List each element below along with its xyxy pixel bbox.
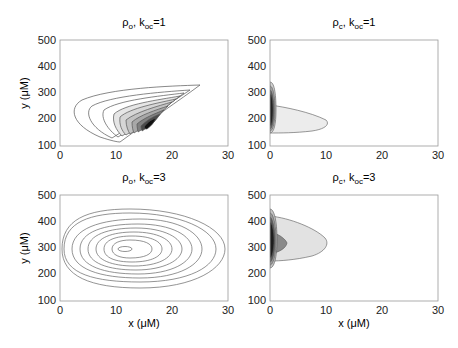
svg-text:500: 500: [248, 189, 266, 201]
svg-text:400: 400: [38, 60, 56, 72]
y-tick-labels: 100 200 300 400 500: [38, 189, 56, 306]
svg-text:0: 0: [267, 304, 273, 316]
subplot-rho-o-koc3: ρo, koc=3 100 200 300 400 500 0 10 20 30: [18, 171, 234, 329]
subplot-title: ρo, koc=3: [122, 171, 165, 186]
svg-text:10: 10: [320, 304, 332, 316]
x-tick-labels: 0 10 20 30: [57, 149, 234, 161]
filled-contours: [270, 82, 327, 133]
filled-contours: [270, 209, 327, 268]
svg-text:400: 400: [248, 215, 266, 227]
contour-lines: [74, 85, 200, 142]
subplot-title: ρc, koc=1: [333, 16, 376, 31]
svg-text:30: 30: [432, 149, 444, 161]
subplot-rho-c-koc1: ρc, koc=1 100 200 300 400 500 0 10 20 30: [248, 16, 444, 161]
y-tick-labels: 100 200 300 400 500: [248, 34, 266, 151]
y-tick-labels: 100 200 300 400 500: [38, 34, 56, 151]
svg-text:10: 10: [320, 149, 332, 161]
x-axis-label: x (μM): [128, 317, 159, 329]
subplot-title: ρc, koc=3: [333, 171, 376, 186]
svg-text:200: 200: [248, 112, 266, 124]
x-tick-labels: 0 10 20 30: [57, 304, 234, 316]
svg-text:300: 300: [38, 86, 56, 98]
svg-text:20: 20: [166, 304, 178, 316]
svg-text:20: 20: [376, 304, 388, 316]
svg-text:100: 100: [38, 139, 56, 151]
svg-text:200: 200: [38, 112, 56, 124]
svg-text:500: 500: [38, 189, 56, 201]
svg-text:10: 10: [110, 304, 122, 316]
svg-text:300: 300: [248, 241, 266, 253]
x-tick-labels: 0 10 20 30: [267, 149, 444, 161]
svg-text:100: 100: [248, 139, 266, 151]
svg-text:30: 30: [222, 149, 234, 161]
svg-text:0: 0: [57, 149, 63, 161]
svg-text:100: 100: [38, 294, 56, 306]
svg-text:20: 20: [376, 149, 388, 161]
x-axis-label: x (μM): [338, 317, 369, 329]
contour-lines: [62, 209, 225, 288]
subplot-title: ρo, koc=1: [122, 16, 165, 31]
figure: ρo, koc=1 100 200 300 400 500 0 10 20 30: [0, 0, 458, 348]
svg-text:300: 300: [38, 241, 56, 253]
svg-text:30: 30: [432, 304, 444, 316]
y-tick-labels: 100 200 300 400 500: [248, 189, 266, 306]
svg-text:30: 30: [222, 304, 234, 316]
svg-text:20: 20: [166, 149, 178, 161]
svg-text:0: 0: [267, 149, 273, 161]
axes-box: [60, 195, 228, 301]
svg-text:100: 100: [248, 294, 266, 306]
svg-text:400: 400: [248, 60, 266, 72]
subplot-rho-c-koc3: ρc, koc=3 100 200 300 400 500 0 10 20 30…: [248, 171, 444, 329]
svg-text:0: 0: [57, 304, 63, 316]
x-tick-labels: 0 10 20 30: [267, 304, 444, 316]
svg-text:300: 300: [248, 86, 266, 98]
svg-text:10: 10: [110, 149, 122, 161]
svg-text:200: 200: [248, 267, 266, 279]
svg-text:400: 400: [38, 215, 56, 227]
svg-text:500: 500: [38, 34, 56, 46]
svg-text:200: 200: [38, 267, 56, 279]
svg-text:500: 500: [248, 34, 266, 46]
y-axis-label: y (μM): [18, 77, 30, 108]
subplot-rho-o-koc1: ρo, koc=1 100 200 300 400 500 0 10 20 30: [18, 16, 234, 161]
y-axis-label: y (μM): [18, 232, 30, 263]
